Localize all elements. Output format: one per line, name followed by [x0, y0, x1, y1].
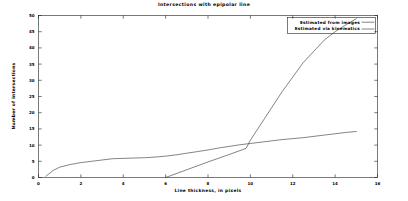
x-tick-label: 8 — [207, 181, 210, 186]
x-axis-label: Line thickness, in pixels — [175, 188, 242, 193]
x-tick-label: 12 — [290, 181, 296, 186]
y-axis-ticks: 05101520253035404550 — [29, 13, 378, 180]
y-tick-label: 20 — [29, 110, 35, 115]
y-tick-label: 0 — [32, 175, 35, 180]
x-axis-ticks: 0246810121416 — [37, 16, 380, 186]
legend-entry-estimated-via-kinematics: Estimated via kinematics — [295, 26, 361, 31]
y-axis-label: Number of intersections — [11, 62, 16, 129]
y-tick-label: 50 — [29, 13, 35, 18]
x-tick-label: 4 — [122, 181, 125, 186]
y-tick-label: 15 — [29, 126, 35, 131]
x-tick-label: 0 — [37, 181, 40, 186]
chart-screenshot: Intersections with epipolar line 0510152… — [0, 0, 408, 201]
data-series-group — [46, 19, 356, 178]
series-line-0 — [46, 131, 356, 176]
x-tick-label: 16 — [375, 181, 381, 186]
x-tick-label: 6 — [164, 181, 167, 186]
chart-legend: Estimated from images Estimated via kine… — [288, 18, 376, 34]
y-tick-label: 25 — [29, 94, 35, 99]
x-tick-label: 10 — [248, 181, 254, 186]
series-line-1 — [166, 19, 357, 178]
chart-plot: 05101520253035404550 0246810121416 Line … — [0, 0, 408, 201]
y-tick-label: 10 — [29, 143, 35, 148]
y-tick-label: 30 — [29, 78, 35, 83]
legend-entry-estimated-from-images: Estimated from images — [300, 20, 360, 25]
y-tick-label: 5 — [32, 159, 35, 164]
x-tick-label: 2 — [79, 181, 82, 186]
x-tick-label: 14 — [332, 181, 338, 186]
y-tick-label: 40 — [29, 45, 35, 50]
plot-frame — [39, 16, 378, 178]
y-tick-label: 45 — [29, 29, 35, 34]
y-tick-label: 35 — [29, 62, 35, 67]
